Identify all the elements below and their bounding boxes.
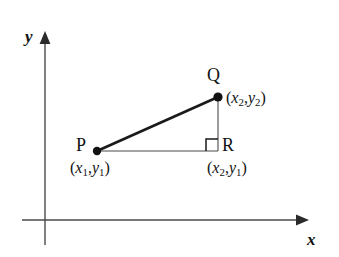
vertex-dot-Q xyxy=(213,92,222,101)
y-axis-arrowhead xyxy=(40,31,51,44)
geometry-figure: y x P Q R (x1,y1) (x2,y2) (x2,y1) xyxy=(0,0,339,257)
coord-r-y-var: y xyxy=(229,159,236,176)
x-axis-label: x xyxy=(307,231,316,248)
right-angle-marker xyxy=(206,139,218,151)
coord-r-close: ) xyxy=(241,159,246,176)
diagram-canvas xyxy=(0,0,339,257)
coord-q-close: ) xyxy=(260,89,265,106)
coord-p-y-var: y xyxy=(92,159,99,176)
y-axis-label: y xyxy=(25,28,33,45)
coordinate-label-r: (x2,y1) xyxy=(207,160,247,178)
vertex-label-r: R xyxy=(222,136,234,154)
segment-PQ xyxy=(97,97,218,151)
coord-p-close: ) xyxy=(104,159,109,176)
coord-q-y-var: y xyxy=(248,89,255,106)
vertex-label-p: P xyxy=(76,136,86,154)
coordinate-label-q: (x2,y2) xyxy=(226,90,266,108)
x-axis-arrowhead xyxy=(296,215,309,226)
vertex-label-q: Q xyxy=(207,66,220,84)
vertex-dot-P xyxy=(93,147,101,155)
coordinate-label-p: (x1,y1) xyxy=(70,160,110,178)
